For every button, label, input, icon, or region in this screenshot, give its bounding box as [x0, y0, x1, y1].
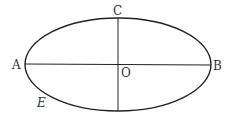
label-c: C: [113, 4, 122, 18]
ellipse-diagram: C A B O E: [0, 0, 231, 119]
label-o: O: [121, 66, 131, 80]
label-a: A: [11, 58, 21, 72]
label-e: E: [36, 96, 46, 110]
label-b: B: [213, 59, 222, 73]
